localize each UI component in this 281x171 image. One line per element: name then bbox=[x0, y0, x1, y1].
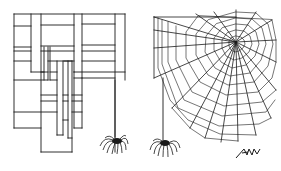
spider-left-icon bbox=[100, 135, 128, 154]
radial-web bbox=[154, 10, 276, 142]
spider-right-icon bbox=[150, 139, 180, 157]
cartoon-canvas: AKW bbox=[0, 0, 281, 171]
signature-mark bbox=[236, 149, 260, 158]
grid-web bbox=[14, 14, 125, 152]
cartoon-illustration bbox=[0, 0, 281, 171]
